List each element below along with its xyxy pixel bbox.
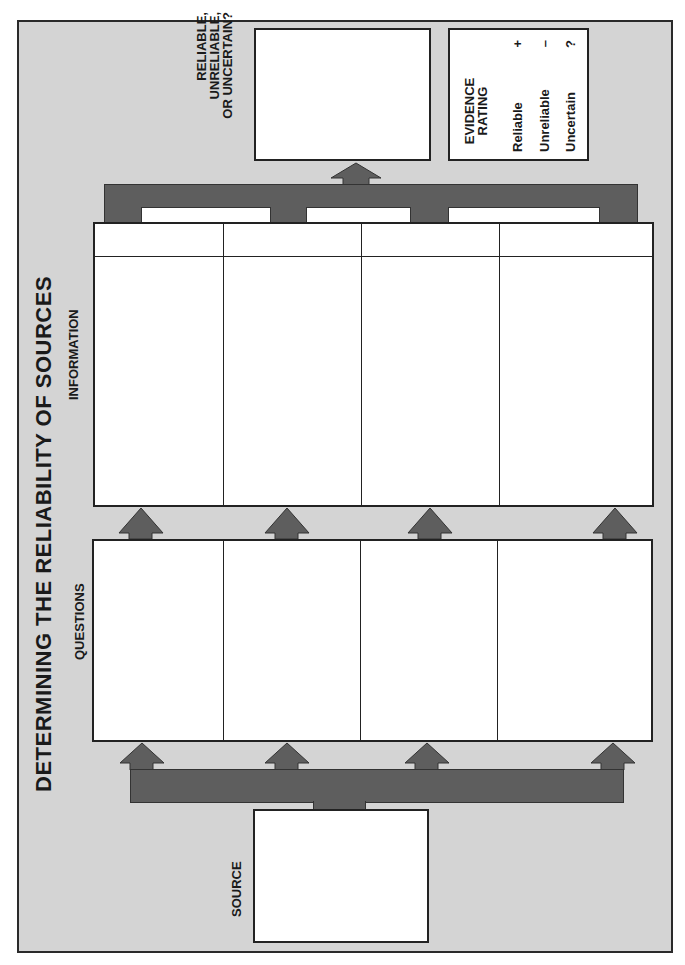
arrow-up-icon xyxy=(591,507,639,539)
arrow-up-icon xyxy=(589,742,637,770)
distributing-bar-bottom xyxy=(130,769,624,803)
evidence-item-symbol: + xyxy=(510,40,525,48)
source-label: SOURCE xyxy=(229,861,244,917)
evidence-item-symbol: – xyxy=(537,40,552,47)
evidence-item-symbol: ? xyxy=(563,40,578,48)
information-label: INFORMATION xyxy=(66,309,81,400)
evidence-item-reliable: Reliable + xyxy=(510,40,525,152)
verdict-box[interactable] xyxy=(254,28,431,161)
verdict-label-line-3: OR UNCERTAIN? xyxy=(221,12,234,172)
verdict-label: RELIABLE, UNRELIABLE, OR UNCERTAIN? xyxy=(195,12,234,172)
arrow-up-icon xyxy=(403,742,451,770)
questions-label: QUESTIONS xyxy=(72,583,87,660)
evidence-item-uncertain: Uncertain ? xyxy=(563,40,578,152)
arrow-up-icon xyxy=(118,742,166,770)
questions-column-divider xyxy=(497,540,498,741)
questions-table[interactable] xyxy=(92,539,653,742)
information-column-divider xyxy=(361,223,362,506)
evidence-item-label: Unreliable xyxy=(537,89,552,152)
questions-column-divider xyxy=(360,540,361,741)
evidence-item-label: Uncertain xyxy=(563,92,578,152)
evidence-item-label: Reliable xyxy=(510,102,525,152)
arrow-up-icon xyxy=(263,742,311,770)
arrow-up-icon xyxy=(329,162,383,186)
bar-notch xyxy=(306,207,411,223)
information-column-divider xyxy=(499,223,500,506)
source-box[interactable] xyxy=(253,809,429,943)
arrow-up-icon xyxy=(263,507,311,539)
arrow-up-icon xyxy=(117,507,165,539)
information-column-divider xyxy=(223,223,224,506)
evidence-item-unreliable: Unreliable – xyxy=(537,40,552,152)
evidence-heading-line-2: RATING xyxy=(476,76,489,146)
page-title: DETERMINING THE RELIABILITY OF SOURCES xyxy=(31,276,57,792)
information-table[interactable] xyxy=(93,222,654,507)
questions-column-divider xyxy=(223,540,224,741)
evidence-rating-heading: EVIDENCE RATING xyxy=(463,76,489,146)
bar-notch xyxy=(448,207,600,223)
information-header-divider xyxy=(94,256,653,257)
arrow-up-icon xyxy=(406,507,454,539)
bar-notch xyxy=(141,207,271,223)
